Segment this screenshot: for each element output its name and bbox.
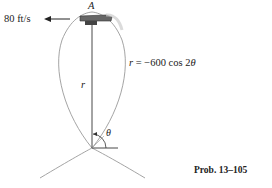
- point-a-label: A: [88, 0, 94, 11]
- curve-equation: r = −600 cos 2θ: [129, 57, 196, 68]
- angle-arrowhead: [93, 132, 97, 136]
- figure-caption: Prob. 13–105: [194, 165, 247, 175]
- radius-label: r: [81, 79, 85, 90]
- equation-var: θ: [190, 57, 195, 68]
- velocity-arrowhead: [44, 16, 51, 22]
- diagram-canvas: [0, 0, 272, 188]
- equation-rhs: = −600 cos 2: [133, 57, 190, 68]
- rose-curve: [40, 12, 145, 178]
- velocity-label: 80 ft/s: [4, 13, 31, 24]
- angle-label: θ: [106, 127, 111, 138]
